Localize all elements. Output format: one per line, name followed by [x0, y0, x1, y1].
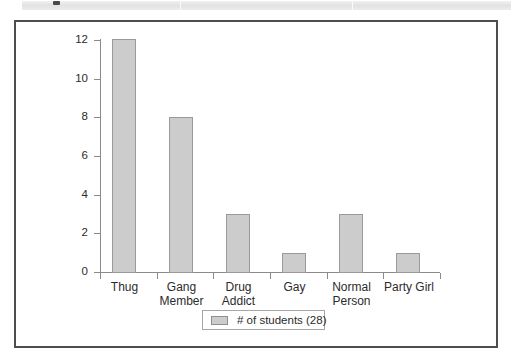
y-axis-tick-label-6: 6 — [24, 150, 88, 162]
y-axis-tick-label-text: 8 — [28, 111, 88, 123]
bar-gang-member[interactable] — [169, 117, 193, 273]
y-axis-tick — [94, 156, 100, 157]
y-axis-tick-label-text: 4 — [28, 189, 88, 201]
y-axis-tick-label-text: 2 — [28, 227, 88, 239]
bar-gay[interactable] — [282, 253, 306, 273]
x-axis-label-gang-member: Gang Member — [153, 280, 210, 308]
bar-thug[interactable] — [112, 39, 136, 273]
y-axis-tick — [94, 233, 100, 234]
x-axis-tick — [213, 273, 214, 279]
x-axis-label-line: Addict — [210, 294, 267, 308]
x-axis-tick — [327, 273, 328, 279]
scan-artifact-seam — [180, 1, 181, 10]
y-axis-tick — [94, 40, 100, 41]
x-axis-label-party-girl: Party Girl — [378, 280, 440, 294]
x-axis-label-gay: Gay — [266, 280, 323, 294]
y-axis-tick — [94, 195, 100, 196]
y-axis-tick — [94, 79, 100, 80]
y-axis-tick-label-12: 12 — [24, 34, 88, 46]
x-axis-tick — [270, 273, 271, 279]
y-axis-tick-label-text: 6 — [28, 150, 88, 162]
x-axis-label-line: Party Girl — [378, 280, 440, 294]
x-axis-label-line: Member — [153, 294, 210, 308]
bar-chart-plot-area: 12 10 8 6 4 2 0 — [16, 22, 496, 346]
y-axis-tick-label-0: 0 — [24, 266, 88, 278]
y-axis-tick-label-8: 8 — [24, 111, 88, 123]
x-axis-tick — [383, 273, 384, 279]
y-axis-tick-label-10: 10 — [24, 73, 88, 85]
x-axis-tick — [100, 273, 101, 279]
scan-artifact-seam — [352, 1, 353, 10]
x-axis-label-line: Normal — [323, 280, 380, 294]
bar-drug-addict[interactable] — [226, 214, 250, 273]
x-axis-label-line: Drug — [210, 280, 267, 294]
y-axis-tick — [94, 117, 100, 118]
legend-entry-label: # of students (28) — [237, 314, 327, 326]
bar-party-girl[interactable] — [396, 253, 420, 273]
y-axis-tick-label-text: 10 — [28, 73, 88, 85]
y-axis-tick-label-2: 2 — [24, 227, 88, 239]
x-axis-label-drug-addict: Drug Addict — [210, 280, 267, 308]
y-axis-tick-label-text: 12 — [28, 34, 88, 46]
x-axis-label-line: Thug — [96, 280, 153, 294]
x-axis-tick — [157, 273, 158, 279]
x-axis-label-line: Gay — [266, 280, 323, 294]
x-axis-label-thug: Thug — [96, 280, 153, 294]
x-axis-label-line: Person — [323, 294, 380, 308]
x-axis-tick — [440, 273, 441, 279]
scan-artifact-strip — [22, 1, 511, 10]
figure-frame: 12 10 8 6 4 2 0 — [14, 20, 498, 348]
y-axis-line — [100, 39, 101, 273]
x-axis-label-line: Gang — [153, 280, 210, 294]
y-axis-tick-label-text: 0 — [28, 266, 88, 278]
legend-color-swatch-icon — [211, 316, 228, 325]
chart-legend: # of students (28) — [202, 310, 325, 330]
x-axis-label-normal-person: Normal Person — [323, 280, 380, 308]
y-axis-tick-label-4: 4 — [24, 189, 88, 201]
bar-normal-person[interactable] — [339, 214, 363, 273]
scan-artifact-speck — [53, 1, 60, 5]
